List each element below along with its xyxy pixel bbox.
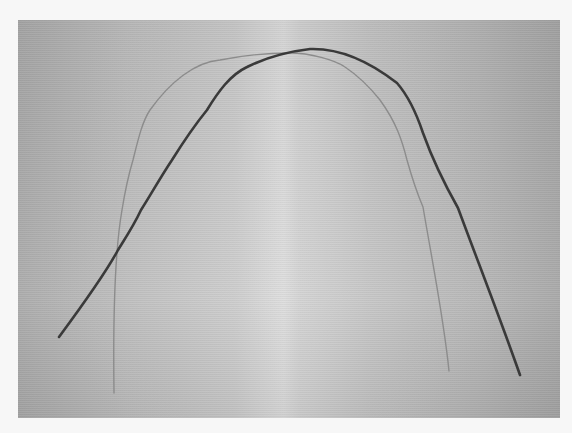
thick-arch-wire [59,49,520,375]
arch-wires [0,0,572,433]
thin-arch-wire [114,53,449,393]
